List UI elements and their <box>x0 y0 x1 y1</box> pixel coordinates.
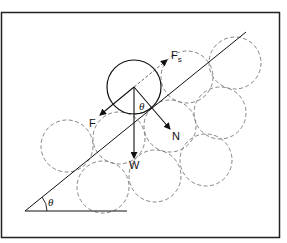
n-label: N <box>172 130 180 142</box>
f-label: F <box>89 117 96 129</box>
w-label: W <box>129 159 140 171</box>
fs-label: Fs <box>171 49 182 64</box>
f-arrow <box>100 87 134 115</box>
packing-circle <box>209 37 261 89</box>
angle-arc <box>42 197 47 211</box>
packing-circle <box>129 150 181 202</box>
diagram-frame <box>2 13 280 238</box>
packing-circle <box>180 134 232 186</box>
packing-circles <box>41 37 261 213</box>
angle-label: θ <box>48 196 54 208</box>
packing-circle <box>194 87 246 139</box>
inner-angle-label: θ <box>139 100 145 112</box>
packing-circle <box>77 161 129 213</box>
inclined-plane-force-diagram: θ Fs F W N θ <box>0 0 287 243</box>
packing-circle <box>41 120 93 172</box>
packing-circle <box>161 51 213 103</box>
